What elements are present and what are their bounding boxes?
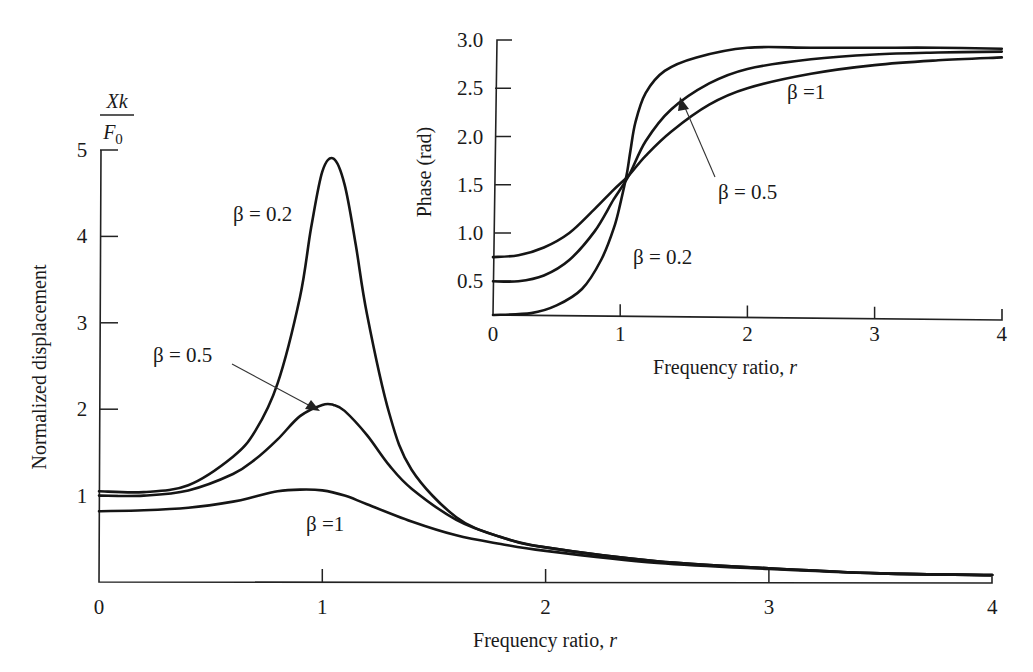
x-tick-label: 3 <box>869 322 880 346</box>
inset-arrow-beta-0.5 <box>683 103 715 177</box>
inset-x-ticks: 01234 <box>488 304 1008 346</box>
main-y-ticks: 12345 <box>77 138 118 508</box>
x-tick-label: 0 <box>94 595 105 619</box>
main-label-beta-1: β =1 <box>306 512 344 536</box>
main-arrow-beta-0.5 <box>232 364 314 408</box>
curve-1 <box>99 489 992 575</box>
phase-curve-1 <box>493 57 1002 257</box>
x-tick-label: 2 <box>742 322 753 346</box>
y-tick-label: 2.5 <box>457 76 483 100</box>
y-tick-label: 2 <box>77 397 88 421</box>
main-label-beta-0.5: β = 0.5 <box>153 343 212 367</box>
inset-label-beta-1: β =1 <box>787 80 825 104</box>
y-tick-label: 4 <box>77 224 88 248</box>
x-tick-label: 2 <box>540 595 551 619</box>
x-tick-label: 4 <box>987 595 998 619</box>
x-tick-label: 3 <box>764 595 775 619</box>
inset-y-axis-title: Phase (rad) <box>413 127 436 218</box>
y-tick-label: 0.5 <box>457 269 483 293</box>
x-tick-label: 1 <box>615 322 626 346</box>
x-tick-label: 1 <box>317 595 328 619</box>
y-tick-label: 1 <box>77 484 88 508</box>
y-tick-label: 2.0 <box>457 125 483 149</box>
main-y-axis-title: Normalized displacement <box>28 264 51 469</box>
main-yfrac-denominator: F0 <box>102 121 123 147</box>
x-tick-label: 4 <box>997 322 1008 346</box>
figure: Xk F0 Normalized displacement 12345 0123… <box>0 0 1033 672</box>
y-tick-label: 3 <box>77 311 88 335</box>
main-plot: Xk F0 Normalized displacement 12345 0123… <box>28 90 998 652</box>
main-label-beta-0.2: β = 0.2 <box>233 202 292 226</box>
y-tick-label: 1.5 <box>457 173 483 197</box>
inset-x-axis-title: Frequency ratio, r <box>653 356 797 379</box>
curve-0.5 <box>99 404 992 575</box>
inset-label-beta-0.5: β = 0.5 <box>718 180 777 204</box>
main-yfrac-numerator: Xk <box>105 90 128 112</box>
inset-label-beta-0.2: β = 0.2 <box>633 245 692 269</box>
main-x-ticks: 01234 <box>94 569 998 619</box>
y-tick-label: 3.0 <box>457 28 483 52</box>
inset-plot: Phase (rad) 0.51.01.52.02.53.0 01234 Fre… <box>413 28 1008 379</box>
inset-y-ticks: 0.51.01.52.02.53.0 <box>457 28 511 293</box>
y-tick-label: 5 <box>77 138 88 162</box>
x-tick-label: 0 <box>488 322 499 346</box>
phase-curve-0.5 <box>493 52 1002 282</box>
main-x-axis-title: Frequency ratio, r <box>473 629 617 652</box>
y-tick-label: 1.0 <box>457 221 483 245</box>
